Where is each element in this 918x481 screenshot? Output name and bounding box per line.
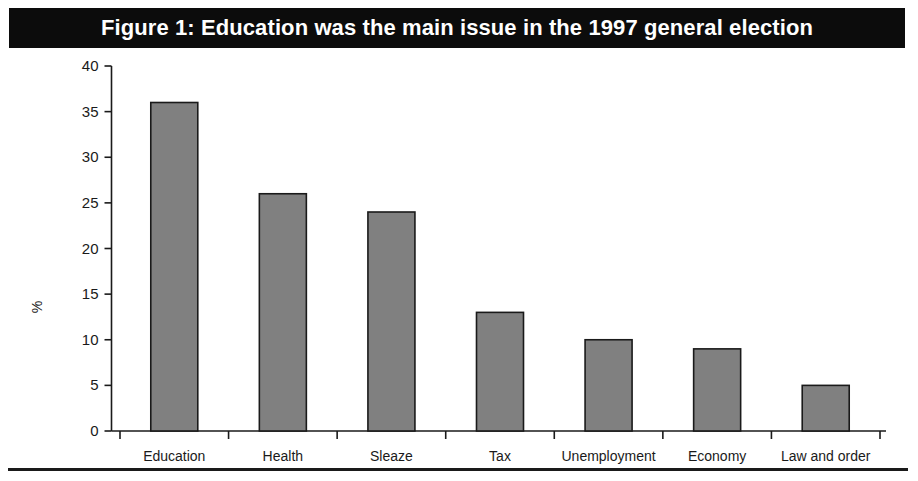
figure-title: Figure 1: Education was the main issue i… [101,17,813,39]
y-axis-tick-label: 40 [59,58,99,73]
y-axis-tick-label: 10 [59,332,99,347]
y-axis-tick-label: 20 [59,241,99,256]
x-axis-category-label: Law and order [751,449,901,463]
figure-container: Figure 1: Education was the main issue i… [0,0,918,481]
y-axis-tick-label: 30 [59,149,99,164]
bar [477,312,524,431]
bar [694,349,741,431]
y-axis-tick-label: 5 [59,377,99,392]
bar [368,212,415,431]
y-axis-tick-label: 35 [59,104,99,119]
bottom-divider [8,468,908,471]
bar-chart-svg [0,55,918,455]
y-axis-ticks [105,66,112,431]
bar-series [151,103,849,432]
y-axis-tick-label: 15 [59,286,99,301]
figure-title-band: Figure 1: Education was the main issue i… [9,8,905,48]
chart-plot-area: % 0510152025303540 EducationHealthSleaze… [0,55,918,455]
y-axis-tick-label: 25 [59,195,99,210]
bar [585,340,632,431]
bar [151,103,198,432]
y-axis-tick-label: 0 [59,423,99,438]
x-axis-ticks [120,431,880,439]
bar [259,194,306,431]
bar [802,385,849,431]
